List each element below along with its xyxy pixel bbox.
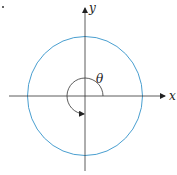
x-axis-label: x — [169, 89, 176, 103]
corner-dot — [2, 6, 4, 8]
angle-label: θ — [96, 72, 104, 86]
polar-diagram: x y θ — [0, 0, 177, 175]
y-axis-label: y — [88, 1, 96, 15]
